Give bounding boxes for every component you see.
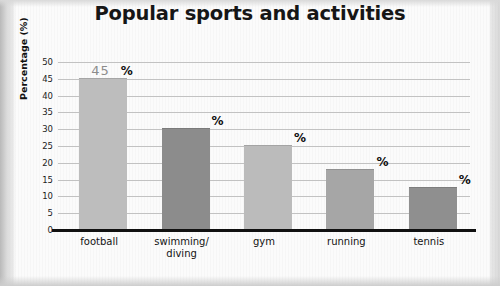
- x-axis-label-line1-2: gym: [217, 236, 311, 248]
- scanned-page: Popular sports and activities Percentage…: [0, 0, 500, 286]
- y-axis-title: Percentage (%): [18, 17, 29, 100]
- bar-swimming--diving: [162, 128, 210, 230]
- bar-gym: [244, 145, 292, 230]
- y-tick-label-40: 40: [42, 91, 53, 101]
- bar-chart-plot-area: 05101520253035404550 45%%%%% footballswi…: [58, 62, 470, 230]
- y-tick-label-35: 35: [42, 107, 53, 117]
- annotation-percent-3: %: [376, 155, 388, 169]
- x-axis-label-1: swimming/diving: [134, 236, 228, 260]
- y-tick-label-20: 20: [42, 158, 53, 168]
- bar-football: [79, 78, 127, 230]
- y-tick-label-15: 15: [42, 175, 53, 185]
- x-axis-label-line1-4: tennis: [382, 236, 476, 248]
- y-tick-label-30: 30: [42, 124, 53, 134]
- y-tick-label-25: 25: [42, 141, 53, 151]
- page-edge-shadow-bottom: [0, 276, 500, 286]
- bar-tennis: [409, 187, 457, 230]
- x-axis-line: [52, 229, 476, 232]
- annotation-percent-4: %: [459, 173, 471, 187]
- x-axis-label-line1-3: running: [299, 236, 393, 248]
- x-axis-label-line2-1: diving: [134, 248, 228, 260]
- page-edge-shadow-left: [0, 0, 16, 286]
- annotation-value-0: 45: [91, 63, 110, 78]
- bar-annotation-2: %: [256, 127, 306, 146]
- bar-annotation-4: %: [421, 169, 471, 188]
- annotation-percent-1: %: [212, 114, 224, 128]
- x-axis-label-2: gym: [217, 236, 311, 248]
- bar-annotation-1: %: [174, 110, 224, 129]
- x-axis-label-0: football: [52, 236, 146, 248]
- x-axis-label-3: running: [299, 236, 393, 248]
- x-axis-label-line1-0: football: [52, 236, 146, 248]
- bar-annotation-0: 45%: [91, 60, 133, 79]
- x-axis-label-line1-1: swimming/: [134, 236, 228, 248]
- annotation-percent-0: %: [121, 64, 133, 78]
- x-axis-label-4: tennis: [382, 236, 476, 248]
- annotation-percent-2: %: [294, 131, 306, 145]
- y-tick-label-5: 5: [48, 208, 53, 218]
- bar-annotation-3: %: [338, 151, 388, 170]
- y-tick-label-45: 45: [42, 74, 53, 84]
- y-tick-label-50: 50: [42, 57, 53, 67]
- y-tick-label-10: 10: [42, 191, 53, 201]
- bar-running: [326, 169, 374, 230]
- chart-title: Popular sports and activities: [0, 2, 500, 25]
